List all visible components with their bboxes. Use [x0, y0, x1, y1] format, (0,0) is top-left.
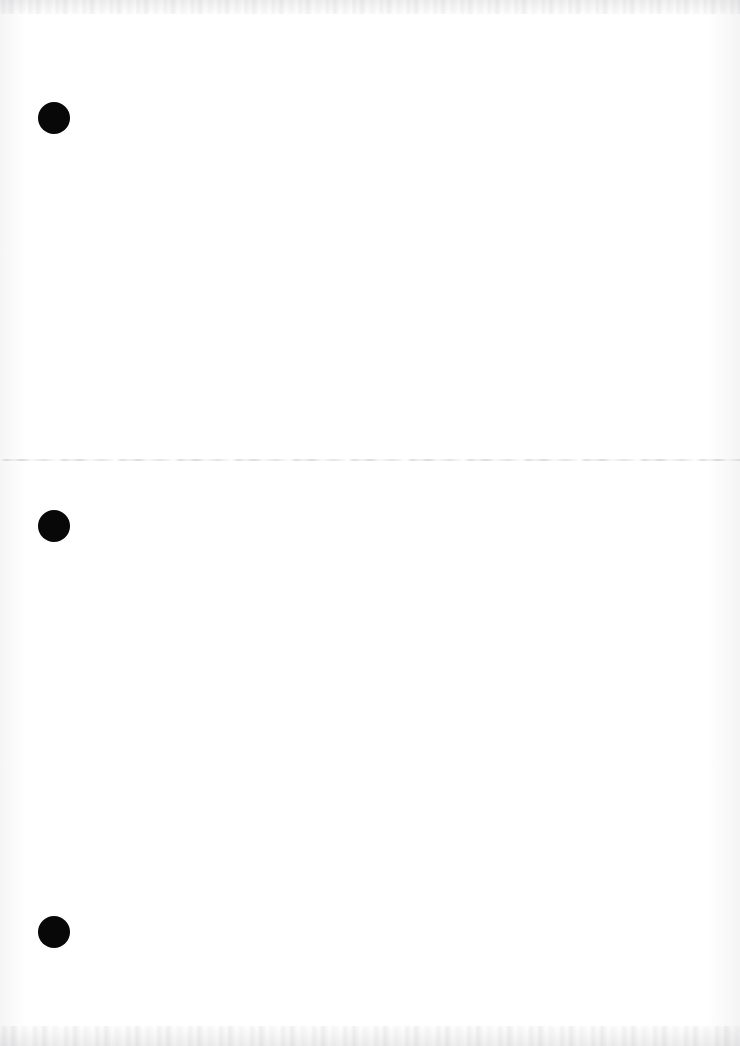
section-divider: [0, 459, 740, 461]
scan-artifact-bottom-edge: [0, 1026, 740, 1046]
scan-artifact-left-edge: [0, 0, 26, 1046]
scan-artifact-top-edge: [0, 0, 740, 14]
scanned-page: [0, 0, 740, 1046]
scan-artifact-right-edge: [706, 0, 740, 1046]
bullet-marker-2: [38, 510, 70, 542]
bullet-marker-1: [38, 102, 70, 134]
bullet-marker-3: [38, 916, 70, 948]
